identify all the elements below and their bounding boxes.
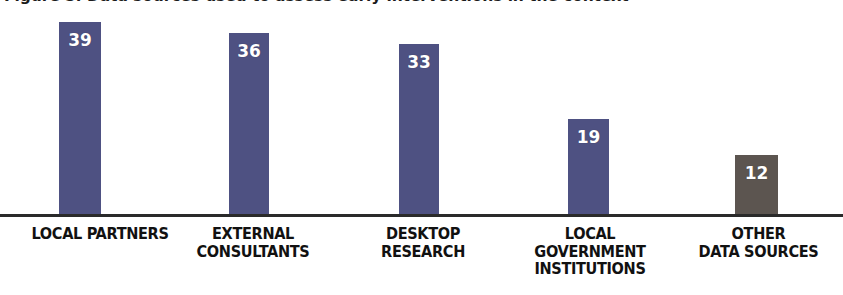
bar-fill: 12	[735, 155, 778, 216]
bar-local-government-institutions: 19	[568, 119, 609, 216]
bar-value-label: 39	[59, 30, 101, 50]
x-axis-baseline	[0, 214, 843, 217]
category-label-line: EXTERNAL	[174, 225, 332, 243]
bar-local-partners: 39	[59, 22, 101, 216]
category-label-desktop-research: DESKTOP RESEARCH	[344, 225, 502, 260]
category-label-line: OTHER	[677, 225, 840, 243]
bar-value-label: 19	[568, 127, 609, 147]
category-label-line: GOVERNMENT	[506, 243, 673, 261]
category-label-line: CONSULTANTS	[174, 243, 332, 261]
bar-value-label: 12	[735, 163, 778, 183]
bar-fill: 19	[568, 119, 609, 216]
figure-bar-chart: Figure 5: Data sources used to assess ea…	[0, 0, 843, 295]
bar-fill: 33	[399, 44, 439, 216]
bar-value-label: 36	[229, 41, 269, 61]
bar-fill: 39	[59, 22, 101, 216]
category-label-local-partners: LOCAL PARTNERS	[12, 225, 188, 243]
category-label-other-data-sources: OTHER DATA SOURCES	[677, 225, 840, 260]
category-label-external-consultants: EXTERNAL CONSULTANTS	[174, 225, 332, 260]
category-labels: LOCAL PARTNERS EXTERNAL CONSULTANTS DESK…	[0, 225, 843, 295]
category-label-line: DESKTOP	[344, 225, 502, 243]
plot-area: 39 36 33 19 12	[0, 0, 843, 217]
category-label-line: LOCAL PARTNERS	[12, 225, 188, 243]
bar-external-consultants: 36	[229, 33, 269, 216]
bar-fill: 36	[229, 33, 269, 216]
category-label-line: RESEARCH	[344, 243, 502, 261]
category-label-line: DATA SOURCES	[677, 243, 840, 261]
bar-value-label: 33	[399, 52, 439, 72]
category-label-line: INSTITUTIONS	[506, 260, 673, 278]
category-label-local-government-institutions: LOCAL GOVERNMENT INSTITUTIONS	[506, 225, 673, 278]
bar-other-data-sources: 12	[735, 155, 778, 216]
category-label-line: LOCAL	[506, 225, 673, 243]
bar-desktop-research: 33	[399, 44, 439, 216]
